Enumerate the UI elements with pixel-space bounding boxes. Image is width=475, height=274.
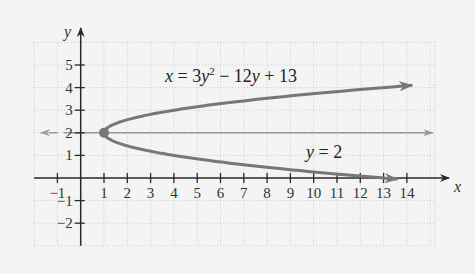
x-axis-label: x <box>453 178 461 195</box>
x-tick-label: 12 <box>353 185 368 201</box>
y-tick-label: 4 <box>65 80 73 96</box>
x-tick-label: 3 <box>147 185 155 201</box>
x-tick-label: 14 <box>399 185 415 201</box>
y-tick-label: 1 <box>65 147 73 163</box>
y-tick-label: 5 <box>65 57 73 73</box>
x-tick-label: 6 <box>217 185 225 201</box>
line-equation-annotation: y = 2 <box>304 142 342 162</box>
y-tick-label: −1 <box>57 193 73 209</box>
x-tick-label: 7 <box>240 185 248 201</box>
x-tick-label: 4 <box>170 185 178 201</box>
x-tick-label: 5 <box>193 185 201 201</box>
y-tick-label: 3 <box>65 102 73 118</box>
y-tick-label: 2 <box>65 125 73 141</box>
axes <box>34 28 449 246</box>
vertex-point <box>99 128 109 138</box>
y-tick-label: −2 <box>57 215 73 231</box>
x-tick-label: 1 <box>100 185 108 201</box>
x-tick-label: 9 <box>287 185 295 201</box>
y-axis-label: y <box>62 23 72 41</box>
x-tick-label: 10 <box>306 185 321 201</box>
x-tick-label: 2 <box>124 185 132 201</box>
equation-annotation: x = 3y2 − 12y + 13 <box>164 65 297 86</box>
x-tick-label: 11 <box>330 185 344 201</box>
x-tick-label: 13 <box>376 185 391 201</box>
x-tick-label: 8 <box>263 185 271 201</box>
parabola-chart: −11234567891011121314−2−112345 y x x = 3… <box>0 0 475 274</box>
